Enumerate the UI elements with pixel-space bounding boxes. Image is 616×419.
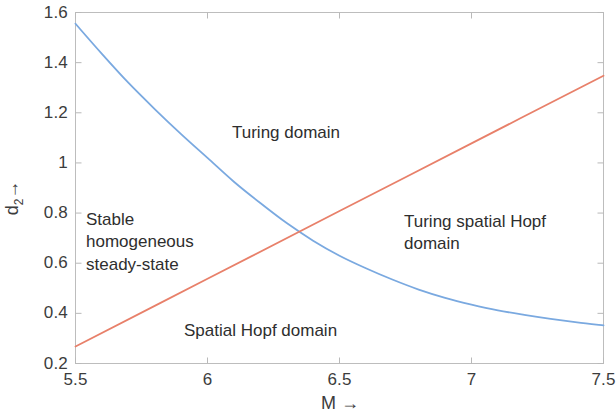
chart-figure: 0.20.40.60.811.21.41.6 5.566.577.5 M → d… (0, 0, 616, 419)
y-tick-label: 0.4 (18, 303, 68, 323)
y-tick-label: 1.4 (18, 53, 68, 73)
axes-box (76, 13, 604, 364)
annotation-spatial-hopf-domain: Spatial Hopf domain (184, 320, 337, 342)
y-tick-label: 1 (18, 153, 68, 173)
y-axis-title-subscript: 2 (12, 199, 26, 206)
x-axis-title: M → (321, 393, 359, 414)
annotation-turing-domain: Turing domain (232, 122, 340, 144)
annotation-turing-spatial-hopf-domain: Turing spatial Hopf domain (404, 211, 546, 256)
y-axis-title-arrow: → (2, 181, 22, 199)
x-tick-label: 6 (203, 370, 213, 390)
y-axis-title-base: d (2, 205, 22, 215)
y-tick-label: 1.2 (18, 103, 68, 123)
x-tick-label: 6.5 (327, 370, 351, 390)
x-tick-label: 5.5 (63, 370, 87, 390)
y-tick-label: 0.2 (18, 354, 68, 374)
y-tick-label: 0.6 (18, 253, 68, 273)
x-tick-label: 7 (467, 370, 477, 390)
annotation-stable-homogeneous-steady-state: Stable homogeneous steady-state (86, 209, 194, 276)
y-tick-label: 1.6 (18, 3, 68, 23)
y-axis-title: d2→ (2, 181, 26, 216)
x-tick-label: 7.5 (591, 370, 615, 390)
